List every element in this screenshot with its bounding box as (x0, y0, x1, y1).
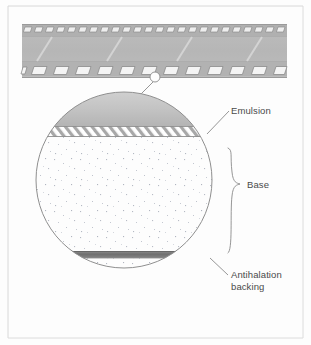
film-structure-diagram: Emulsion Base Antihalation backing (0, 0, 311, 345)
label-antihalation-line1: Antihalation (231, 269, 282, 280)
layer-emulsion-band (30, 126, 220, 137)
detail-marker (150, 72, 160, 82)
label-antihalation-line2: backing (231, 281, 264, 292)
label-emulsion: Emulsion (231, 105, 271, 116)
label-base: Base (247, 179, 269, 190)
diagram-canvas: Emulsion Base Antihalation backing (0, 0, 311, 345)
film-strip (21, 24, 287, 78)
